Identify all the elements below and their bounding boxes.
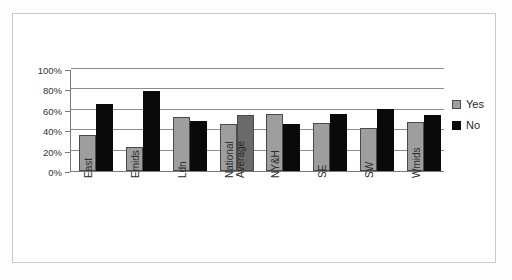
x-tick-label: Ldn — [177, 161, 188, 178]
bar-chart-figure: 100%80%60%40%20%0% EastEmidsLdnNationalA… — [0, 0, 512, 280]
x-tick-label: East — [83, 158, 94, 178]
legend-entry[interactable]: Yes — [452, 98, 504, 110]
x-tick-label: National — [224, 141, 235, 178]
bar-no[interactable] — [424, 115, 441, 171]
legend-label: No — [466, 119, 480, 131]
x-tick-label: Emids — [130, 150, 141, 178]
x-tick-label: SE — [317, 165, 328, 178]
y-tick-label: 20% — [43, 147, 62, 158]
legend-entry[interactable]: No — [452, 119, 504, 131]
x-axis: EastEmidsLdnNationalAverageNY&HSESWWmids — [70, 176, 444, 271]
x-tick-label: NY&H — [270, 150, 281, 178]
plot-area — [70, 70, 444, 172]
x-tick-label: Average — [235, 141, 246, 178]
bar-group — [360, 70, 394, 171]
bar-no[interactable] — [190, 121, 207, 171]
y-tick-mark — [65, 172, 70, 173]
y-tick-label: 80% — [43, 85, 62, 96]
x-tick-label: Wmids — [411, 147, 422, 178]
gridline — [71, 68, 444, 69]
legend-label: Yes — [466, 98, 484, 110]
bar-group — [313, 70, 347, 171]
bar-no[interactable] — [96, 104, 113, 171]
y-tick-label: 60% — [43, 106, 62, 117]
bar-no[interactable] — [143, 91, 160, 171]
gray-swatch-icon — [452, 100, 461, 109]
y-tick-label: 100% — [38, 65, 62, 76]
x-tick-label: SW — [364, 162, 375, 178]
y-tick-label: 40% — [43, 126, 62, 137]
bar-no[interactable] — [330, 114, 347, 171]
bar-no[interactable] — [377, 109, 394, 171]
black-swatch-icon — [452, 121, 461, 130]
y-tick-label: 0% — [48, 167, 62, 178]
bar-no[interactable] — [283, 124, 300, 171]
bar-group — [173, 70, 207, 171]
chart-legend: YesNo — [452, 98, 504, 140]
bar-group — [79, 70, 113, 171]
y-axis: 100%80%60%40%20%0% — [20, 62, 66, 180]
